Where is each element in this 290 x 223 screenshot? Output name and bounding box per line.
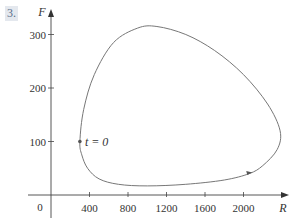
start-point-label: t = 0 [85,135,108,149]
x-tick-label: 400 [81,202,98,214]
x-axis-label: R [278,201,287,215]
y-axis-arrow-icon [48,9,54,17]
x-tick-label: 1200 [156,202,179,214]
x-tick-label: 1600 [194,202,217,214]
y-axis-label: F [37,5,46,19]
y-tick-label: 300 [30,29,47,41]
annotations: t = 0 [78,135,252,176]
start-point-dot-icon [78,140,82,144]
origin-label: 0 [37,201,43,213]
y-tick-label: 200 [30,82,47,94]
x-tick-label: 800 [120,202,137,214]
phase-plot: 4008001200160020001002003000RF t = 0 [0,0,290,223]
trajectory-curve [80,26,281,186]
x-axis-arrow-icon [281,192,289,198]
trajectory-path [80,26,281,186]
y-tick-label: 100 [30,136,47,148]
x-tick-label: 2000 [233,202,256,214]
